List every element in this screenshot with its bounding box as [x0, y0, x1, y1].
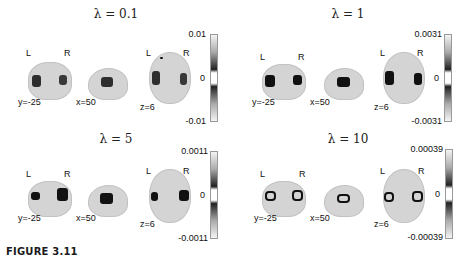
panel-title: λ = 0.1 — [0, 7, 232, 21]
sagittal-slice — [88, 68, 128, 100]
colorbar-max: 0.0011 — [181, 146, 208, 156]
sagittal-slice — [324, 68, 364, 100]
axial-coord-label: z=6 — [140, 102, 155, 112]
colorbar — [210, 34, 218, 122]
figure-caption: FIGURE 3.11 — [6, 246, 78, 257]
axial-slice — [383, 169, 425, 223]
left-label: L — [146, 48, 151, 58]
right-label: R — [64, 169, 71, 179]
right-label: R — [298, 52, 305, 62]
axial-coord-label: z=6 — [374, 219, 389, 229]
left-label: L — [380, 48, 385, 58]
colorbar — [444, 34, 452, 122]
coronal-slice — [28, 62, 72, 100]
left-label: L — [26, 169, 31, 179]
coronal-slice — [28, 181, 72, 217]
axial-coord-label: z=6 — [140, 219, 155, 229]
sagittal-slice — [324, 185, 364, 217]
sagittal-coord-label: x=50 — [310, 97, 330, 107]
axial-coord-label: z=6 — [374, 102, 389, 112]
left-label: L — [260, 52, 265, 62]
axial-slice — [383, 52, 425, 104]
axial-slice — [149, 169, 191, 223]
colorbar — [445, 149, 453, 239]
coronal-coord-label: y=-25 — [18, 213, 41, 223]
colorbar-mid: 0 — [435, 189, 440, 199]
sagittal-coord-label: x=50 — [310, 213, 330, 223]
coronal-slice — [262, 64, 306, 100]
left-label: L — [26, 48, 31, 58]
colorbar — [210, 151, 218, 239]
axial-slice — [149, 52, 191, 104]
panel-lambda-5: λ = 5 L R y=-25 x=50 L R z=6 0.0011 0 -0… — [0, 125, 232, 245]
panel-title: λ = 1 — [232, 7, 464, 21]
left-label: L — [380, 166, 385, 176]
colorbar-mid: 0 — [200, 190, 205, 200]
right-label: R — [64, 48, 71, 58]
left-label: L — [260, 169, 265, 179]
panel-lambda-10: λ = 10 L R y=-25 x=50 L R z=6 0.00039 0 … — [232, 125, 464, 245]
right-label: R — [417, 48, 424, 58]
colorbar-mid: 0 — [434, 73, 439, 83]
coronal-coord-label: y=-25 — [18, 97, 41, 107]
panel-lambda-0-1: λ = 0.1 L R y=-25 x=50 L R z=6 0.01 0 -0… — [0, 0, 232, 120]
sagittal-coord-label: x=50 — [76, 213, 96, 223]
panel-title: λ = 5 — [0, 132, 232, 146]
coronal-coord-label: y=-25 — [254, 213, 277, 223]
right-label: R — [418, 166, 425, 176]
colorbar-min: -0.0011 — [178, 233, 208, 243]
colorbar-max: 0.0031 — [414, 29, 442, 39]
right-label: R — [299, 169, 306, 179]
colorbar-min: -0.00039 — [407, 232, 443, 242]
right-label: R — [183, 48, 190, 58]
colorbar-max: 0.00039 — [410, 144, 443, 154]
coronal-slice — [262, 181, 306, 217]
sagittal-coord-label: x=50 — [76, 97, 96, 107]
left-label: L — [146, 166, 151, 176]
coronal-coord-label: y=-25 — [252, 97, 275, 107]
colorbar-max: 0.01 — [188, 29, 206, 39]
panel-lambda-1: λ = 1 L R y=-25 x=50 L R z=6 0.0031 0 -0… — [232, 0, 464, 120]
colorbar-mid: 0 — [200, 73, 205, 83]
